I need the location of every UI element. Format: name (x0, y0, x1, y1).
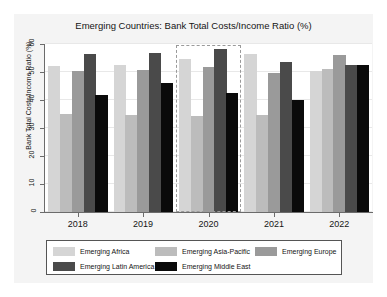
y-axis-tick-label: 60 (0, 39, 36, 46)
x-axis-label-2021: 2021 (244, 219, 304, 229)
y-axis-tick (40, 72, 44, 73)
bar-2021-emerging-europe (268, 73, 280, 212)
bar-2022-emerging-latin-america (345, 65, 357, 212)
y-axis-tick-label: 30 (0, 123, 36, 130)
x-axis-label-2019: 2019 (113, 219, 173, 229)
chart-title: Emerging Countries: Bank Total Costs/Inc… (14, 20, 373, 31)
y-axis-tick-label: 50 (0, 67, 36, 74)
legend-swatch (53, 247, 75, 256)
legend-label: Emerging Asia-Pacific (182, 248, 250, 255)
bar-2021-emerging-africa (244, 54, 256, 212)
bar-2020-emerging-europe (203, 67, 215, 212)
x-axis-tick (274, 213, 275, 217)
y-axis-tick (40, 44, 44, 45)
gridline (45, 43, 372, 44)
bar-2021-emerging-latin-america (280, 62, 292, 212)
bar-2020-emerging-latin-america (214, 49, 226, 212)
bar-2021-emerging-middle-east (292, 100, 304, 212)
legend-entry-emerging-latin-america[interactable]: Emerging Latin America (53, 260, 154, 273)
bar-2020-emerging-asia-pacific (191, 116, 203, 212)
y-axis-tick-label: 20 (0, 151, 36, 158)
bar-2021-emerging-asia-pacific (256, 115, 268, 212)
x-axis-tick (143, 213, 144, 217)
bar-2019-emerging-africa (114, 65, 126, 212)
y-axis-tick (40, 128, 44, 129)
y-axis-line (44, 44, 45, 213)
bar-2019-emerging-asia-pacific (125, 115, 137, 212)
x-axis-label-2020: 2020 (179, 219, 239, 229)
bar-2022-emerging-asia-pacific (322, 69, 334, 212)
plot-area (45, 44, 372, 212)
legend-entry-emerging-europe[interactable]: Emerging Europe (255, 245, 336, 258)
y-axis-tick-label: 40 (0, 95, 36, 102)
legend-swatch (155, 262, 177, 271)
bar-2019-emerging-europe (137, 70, 149, 212)
x-axis-tick (78, 213, 79, 217)
legend-label: Emerging Middle East (182, 263, 250, 270)
bar-2019-emerging-middle-east (161, 83, 173, 212)
bar-2020-emerging-africa (179, 59, 191, 212)
bar-2018-emerging-africa (48, 66, 60, 212)
y-axis-tick (40, 212, 44, 213)
legend-swatch (155, 247, 177, 256)
bar-2018-emerging-middle-east (95, 95, 107, 212)
legend-entry-emerging-asia-pacific[interactable]: Emerging Asia-Pacific (155, 245, 250, 258)
y-axis-tick-label: 10 (0, 179, 36, 186)
legend-entry-emerging-africa[interactable]: Emerging Africa (53, 245, 129, 258)
x-axis-tick (339, 213, 340, 217)
x-axis-label-2018: 2018 (48, 219, 108, 229)
legend-label: Emerging Latin America (80, 263, 154, 270)
bar-2018-emerging-latin-america (84, 54, 96, 212)
legend-swatch (53, 262, 75, 271)
bar-2022-emerging-africa (310, 71, 322, 212)
bar-2018-emerging-asia-pacific (60, 114, 72, 212)
chart-figure: Emerging Countries: Bank Total Costs/Inc… (0, 0, 387, 297)
y-axis-tick (40, 184, 44, 185)
bar-2022-emerging-europe (333, 55, 345, 212)
bar-2020-emerging-middle-east (226, 93, 238, 212)
x-axis-label-2022: 2022 (309, 219, 369, 229)
legend-label: Emerging Europe (282, 248, 336, 255)
y-axis-tick (40, 156, 44, 157)
bar-2022-emerging-middle-east (357, 65, 369, 212)
y-axis-tick (40, 100, 44, 101)
bar-2018-emerging-europe (72, 71, 84, 212)
legend-entry-emerging-middle-east[interactable]: Emerging Middle East (155, 260, 250, 273)
bar-2019-emerging-latin-america (149, 53, 161, 212)
legend-label: Emerging Africa (80, 248, 129, 255)
y-axis-tick-label: 0 (0, 207, 36, 214)
legend-swatch (255, 247, 277, 256)
chart-legend: Emerging AfricaEmerging Asia-PacificEmer… (46, 240, 342, 275)
x-axis-tick (209, 213, 210, 217)
